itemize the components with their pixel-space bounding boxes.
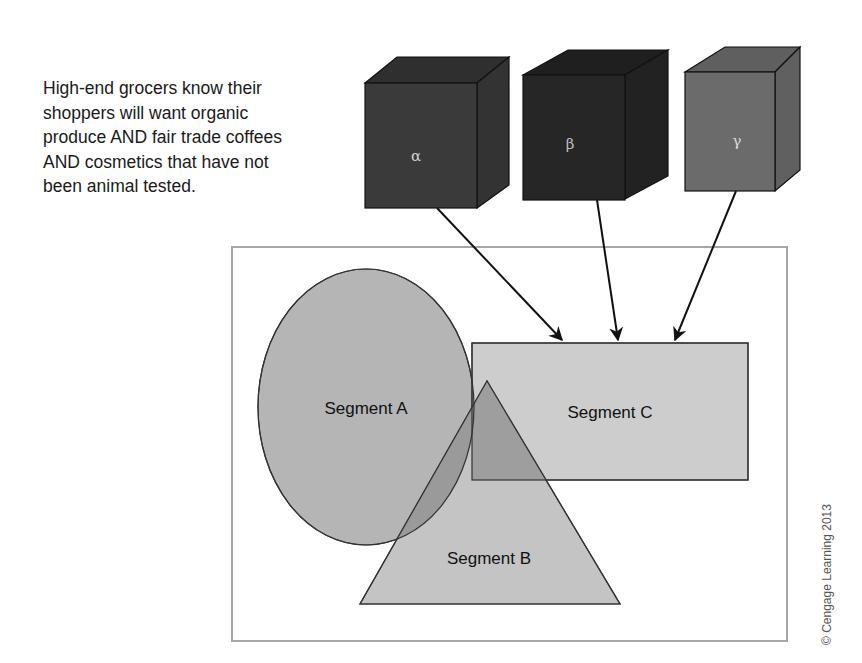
cube-beta: β [523, 50, 668, 200]
cube-gamma-label: γ [733, 132, 742, 150]
cube-alpha-label: α [411, 147, 421, 165]
cube-gamma: γ [685, 47, 800, 191]
segment-b-label: Segment B [447, 549, 531, 568]
copyright-credit: © Cengage Learning 2013 [820, 504, 834, 645]
arrow-beta [597, 200, 618, 340]
cube-beta-label: β [566, 135, 575, 153]
segment-c-label: Segment C [567, 403, 652, 422]
segment-a-label: Segment A [324, 399, 408, 418]
arrow-gamma [675, 191, 736, 340]
segment-diagram: α β γ Segment A Segment C Segment B [0, 0, 862, 663]
cube-alpha: α [365, 57, 509, 208]
arrow-alpha [437, 208, 562, 340]
